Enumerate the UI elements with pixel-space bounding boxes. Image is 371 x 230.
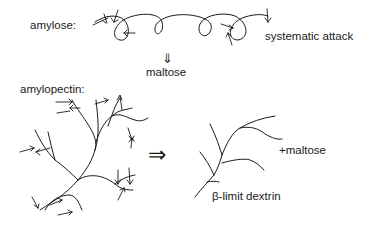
beta-limit-dextrin-diagram [0, 0, 371, 230]
